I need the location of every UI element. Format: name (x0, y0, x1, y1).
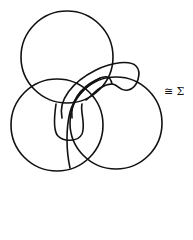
homeomorphic-to-sigma-label: ≅ Σ (164, 86, 184, 98)
band-lower-loop (55, 104, 84, 140)
left-circle (11, 79, 103, 171)
